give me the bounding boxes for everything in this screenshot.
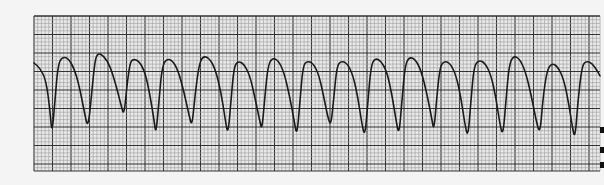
ecg-strip (0, 0, 604, 185)
